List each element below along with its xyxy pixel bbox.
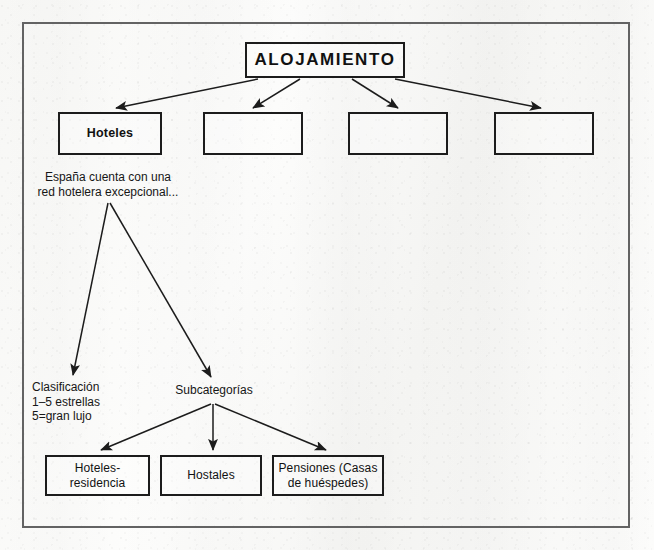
node-box-level2-empty-1 bbox=[203, 112, 303, 155]
text-label-hoteles-note: España cuenta con una red hotelera excep… bbox=[18, 170, 198, 199]
text-label-clasificacion-note: Clasificación 1–5 estrellas 5=gran lujo bbox=[32, 380, 152, 424]
node-box-level2-empty-2 bbox=[348, 112, 448, 155]
text-label-subcategorias-note: Subcategorías bbox=[168, 383, 260, 398]
node-box-leaf-hoteles-residencia: Hoteles- residencia bbox=[45, 455, 150, 496]
node-box-level2-empty-3 bbox=[494, 112, 594, 155]
diagram-frame bbox=[22, 22, 630, 528]
node-box-leaf-hostales: Hostales bbox=[160, 455, 262, 496]
node-box-level2-hoteles: Hoteles bbox=[58, 112, 162, 155]
node-box-root-alojamiento: ALOJAMIENTO bbox=[245, 42, 405, 78]
node-box-leaf-pensiones-casas-de-huespedes: Pensiones (Casas de huéspedes) bbox=[272, 455, 384, 496]
